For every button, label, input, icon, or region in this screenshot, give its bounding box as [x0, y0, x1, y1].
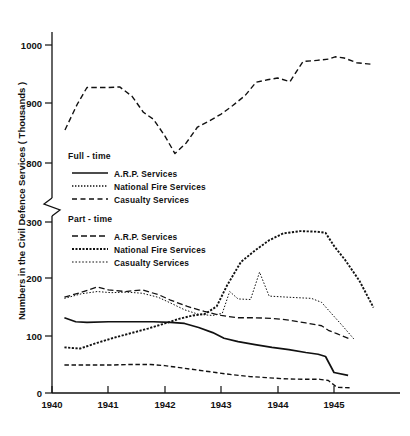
y-axis-title: Numbers in the Civil Defence Services ( … [16, 82, 27, 320]
legend-full-time: Full - time A.R.P. Services National Fir… [68, 151, 206, 205]
y-tick-label-800: 800 [26, 158, 42, 169]
y-axis-break-mark [44, 198, 60, 216]
series-line-0 [65, 57, 374, 154]
legend-heading-full-time: Full - time [68, 151, 111, 161]
chart-container: 1000 900 800 300 200 100 0 Numbers in th… [0, 0, 410, 436]
legend-label-part-arp: A.R.P. Services [114, 232, 178, 242]
y-tick-label-100: 100 [26, 331, 42, 342]
x-tick-label-1940: 1940 [41, 399, 62, 410]
legend-label-full-arp: A.R.P. Services [114, 169, 178, 179]
y-tick-label-200: 200 [26, 273, 42, 284]
y-tick-label-1000: 1000 [21, 40, 42, 51]
x-tick-label-1945: 1945 [323, 399, 345, 410]
legend-label-full-casualty: Casualty Services [114, 195, 189, 205]
y-axis: 1000 900 800 300 200 100 0 Numbers in th… [16, 32, 60, 399]
x-tick-label-1941: 1941 [97, 399, 119, 410]
legend-heading-part-time: Part - time [68, 214, 112, 224]
x-tick-label-1942: 1942 [154, 399, 175, 410]
legend-label-part-nfs: National Fire Services [114, 245, 206, 255]
series-line-5 [64, 365, 351, 388]
x-axis: 1940 1941 1942 1943 1944 1945 [41, 386, 400, 410]
x-tick-label-1943: 1943 [210, 399, 231, 410]
legend-label-full-nfs: National Fire Services [114, 182, 206, 192]
y-tick-label-0: 0 [37, 388, 42, 399]
legend-part-time: Part - time A.R.P. Services National Fir… [68, 214, 206, 268]
series-line-4 [64, 318, 348, 376]
legend-label-part-casualty: Casualty Services [114, 258, 189, 268]
civil-defence-services-line-chart: 1000 900 800 300 200 100 0 Numbers in th… [0, 0, 410, 436]
x-tick-label-1944: 1944 [267, 399, 289, 410]
y-tick-label-900: 900 [26, 98, 42, 109]
y-tick-label-300: 300 [26, 217, 42, 228]
series-line-3 [64, 272, 353, 339]
